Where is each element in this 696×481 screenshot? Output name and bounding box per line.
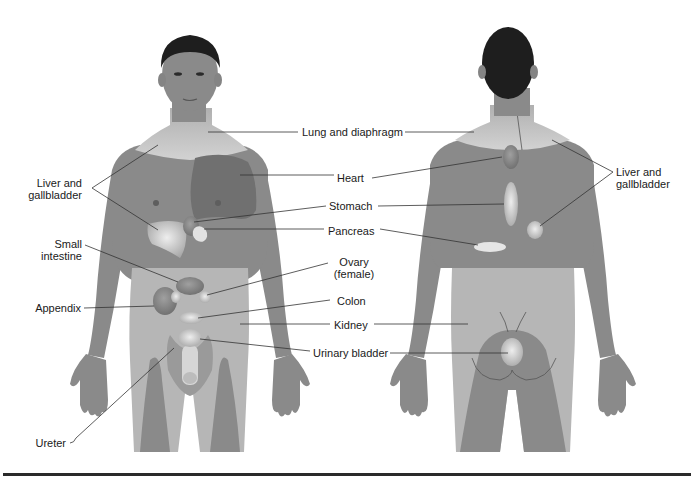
posterior-figure bbox=[390, 27, 636, 452]
back-liver-area bbox=[527, 221, 543, 239]
label-ovary: Ovary (female) bbox=[332, 256, 376, 280]
label-ovary-line2: (female) bbox=[332, 268, 376, 280]
label-kidney: Kidney bbox=[334, 319, 368, 331]
label-liver-front-line2: gallbladder bbox=[20, 189, 82, 201]
back-right-hand bbox=[598, 354, 636, 417]
label-lung-and-diaphragm: Lung and diaphragm bbox=[302, 126, 403, 138]
label-liver-gallbladder-front: Liver and gallbladder bbox=[20, 177, 82, 201]
back-urinary-bladder-area bbox=[501, 338, 523, 366]
label-small-intestine-line1: Small bbox=[26, 238, 82, 250]
front-ovary-area bbox=[199, 291, 211, 303]
label-stomach: Stomach bbox=[329, 200, 372, 212]
label-liver-gallbladder-back: Liver and gallbladder bbox=[616, 166, 670, 190]
back-head bbox=[482, 27, 534, 99]
referred-pain-diagram bbox=[0, 0, 696, 481]
front-heart-area bbox=[191, 155, 257, 220]
label-ureter: Ureter bbox=[30, 437, 66, 449]
label-colon: Colon bbox=[337, 295, 366, 307]
front-right-hand bbox=[272, 354, 310, 417]
front-urinary-bladder-area bbox=[178, 329, 202, 347]
label-heart: Heart bbox=[337, 172, 364, 184]
back-left-hand bbox=[390, 354, 428, 417]
back-stomach-area bbox=[504, 182, 518, 226]
front-right-eye bbox=[196, 72, 204, 76]
label-liver-front-line1: Liver and bbox=[20, 177, 82, 189]
back-heart-area bbox=[503, 145, 519, 169]
label-liver-back-line1: Liver and bbox=[616, 166, 670, 178]
front-small-intestine-area bbox=[176, 277, 204, 295]
label-liver-back-line2: gallbladder bbox=[616, 178, 670, 190]
label-ovary-line1: Ovary bbox=[332, 256, 376, 268]
bottom-rule bbox=[3, 473, 691, 476]
anterior-figure bbox=[70, 35, 310, 452]
front-left-hand bbox=[70, 354, 108, 417]
label-small-intestine-line2: intestine bbox=[26, 250, 82, 262]
back-pancreas-area bbox=[474, 242, 506, 252]
label-appendix: Appendix bbox=[20, 302, 81, 314]
front-left-eye bbox=[174, 72, 182, 76]
label-pancreas: Pancreas bbox=[328, 225, 374, 237]
label-urinary-bladder: Urinary bladder bbox=[313, 347, 388, 359]
label-small-intestine: Small intestine bbox=[26, 238, 82, 262]
